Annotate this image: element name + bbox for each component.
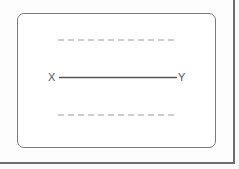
end-label: Y (178, 71, 186, 83)
diagram-canvas: X Y (0, 0, 239, 169)
start-label: X (48, 71, 56, 83)
